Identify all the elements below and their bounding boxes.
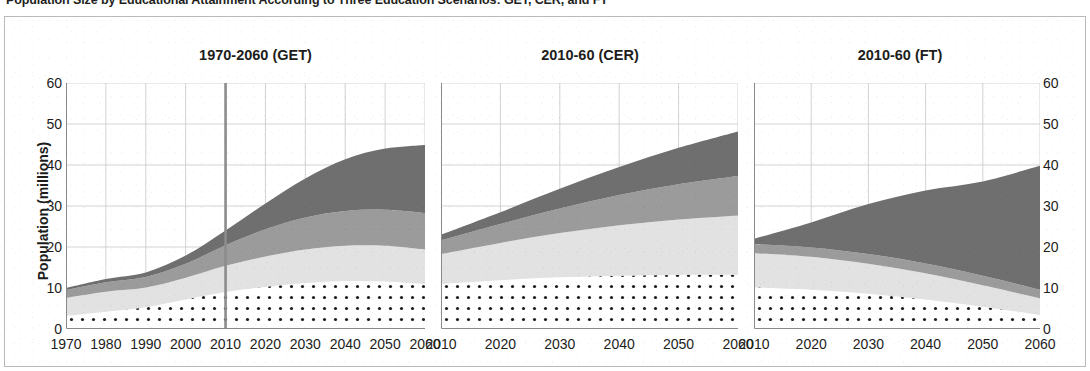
x-tick-label: 2020 <box>796 337 827 351</box>
x-tick-label: 1980 <box>90 337 121 351</box>
area-band-no-education <box>441 275 738 329</box>
x-tick-label: 2040 <box>330 337 361 351</box>
y-axis-ticks-right: 6050403020100 <box>1043 83 1071 329</box>
x-tick-label: 2040 <box>910 337 941 351</box>
x-tick-label: 2010 <box>425 337 456 351</box>
y-tick-label: 50 <box>34 117 62 131</box>
x-tick-label: 1990 <box>130 337 161 351</box>
x-tick-label: 2020 <box>250 337 281 351</box>
y-tick-label: 20 <box>1043 240 1071 254</box>
y-axis-ticks-left: 6050403020100 <box>34 83 62 329</box>
x-tick-label: 2000 <box>170 337 201 351</box>
panel-title-cer: 2010-60 (CER) <box>445 47 735 63</box>
y-tick-label: 50 <box>1043 117 1071 131</box>
x-tick-label: 2010 <box>738 337 769 351</box>
x-tick-label: 1970 <box>50 337 81 351</box>
y-tick-label: 0 <box>34 322 62 336</box>
y-tick-label: 60 <box>34 76 62 90</box>
x-tick-label: 2020 <box>485 337 516 351</box>
y-tick-label: 10 <box>1043 281 1071 295</box>
y-tick-label: 60 <box>1043 76 1071 90</box>
x-axis-ticks-ft: 201020202030204020502060 <box>754 337 1040 357</box>
x-tick-label: 2060 <box>1024 337 1055 351</box>
y-tick-label: 0 <box>1043 322 1071 336</box>
x-tick-label: 2050 <box>967 337 998 351</box>
chart-figure-plate: 1970-2060 (GET) 2010-60 (CER) 2010-60 (F… <box>4 16 1086 367</box>
plot-panel-ft <box>754 83 1040 329</box>
x-tick-label: 2040 <box>604 337 635 351</box>
x-tick-label: 2010 <box>210 337 241 351</box>
x-tick-label: 2050 <box>663 337 694 351</box>
y-tick-label: 10 <box>34 281 62 295</box>
x-axis-ticks-get: 1970198019902000201020202030204020502060 <box>66 337 425 357</box>
x-tick-label: 2030 <box>544 337 575 351</box>
x-axis-ticks-cer: 201020202030204020502060 <box>441 337 738 357</box>
y-tick-label: 30 <box>1043 199 1071 213</box>
x-tick-label: 2050 <box>370 337 401 351</box>
x-tick-label: 2030 <box>853 337 884 351</box>
y-tick-label: 40 <box>34 158 62 172</box>
plot-panel-get <box>66 83 425 329</box>
plot-panel-cer <box>441 83 738 329</box>
x-tick-label: 2030 <box>290 337 321 351</box>
panel-title-get: 1970-2060 (GET) <box>74 47 437 63</box>
figure-title: Population Size by Educational Attainmen… <box>6 0 608 7</box>
y-tick-label: 40 <box>1043 158 1071 172</box>
panel-title-ft: 2010-60 (FT) <box>750 47 1050 63</box>
y-tick-label: 30 <box>34 199 62 213</box>
y-tick-label: 20 <box>34 240 62 254</box>
